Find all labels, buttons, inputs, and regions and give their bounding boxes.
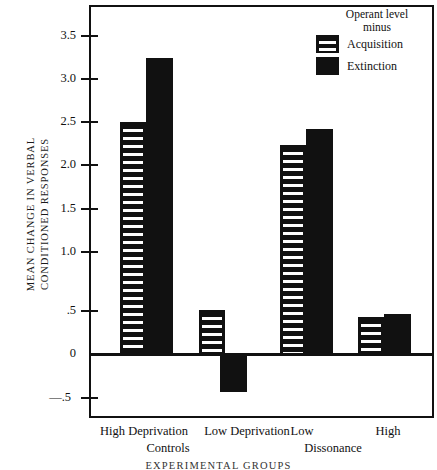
bar-extinction-low-dissonance — [306, 129, 333, 355]
x-category-label-low: Low — [262, 424, 342, 439]
y-tick-mark — [81, 78, 98, 80]
y-tick-label: —.5 — [31, 390, 71, 405]
bar-extinction-high-deprivation — [146, 58, 173, 355]
y-tick-label: 0 — [36, 346, 76, 361]
zero-baseline — [89, 353, 434, 356]
bar-chart-figure: MEAN CHANGE IN VERBAL CONDITIONED RESPON… — [0, 0, 437, 470]
y-tick-mark — [81, 208, 98, 210]
x-group-label-dissonance: Dissonance — [278, 441, 388, 456]
y-tick-label: 1.0 — [36, 244, 76, 259]
y-tick-mark — [81, 310, 98, 312]
legend: Operant level minus Acquisition Extincti… — [300, 8, 430, 34]
legend-item-extinction: Extinction — [316, 57, 397, 75]
y-tick-mark — [81, 164, 98, 166]
x-group-label-controls: Controls — [118, 441, 218, 456]
y-tick-label: .5 — [36, 303, 76, 318]
bar-acquisition-high-dissonance — [358, 317, 384, 355]
bar-acquisition-high-deprivation — [120, 122, 146, 355]
legend-swatch-solid-icon — [316, 57, 339, 75]
y-tick-mark — [81, 35, 98, 37]
y-tick-label: 2.0 — [36, 157, 76, 172]
legend-label-acquisition: Acquisition — [347, 37, 403, 52]
bar-acquisition-low-dissonance — [280, 145, 306, 355]
y-tick-label: 3.5 — [36, 28, 76, 43]
bar-extinction-low-deprivation — [220, 355, 247, 392]
x-axis-title: EXPERIMENTAL GROUPS — [0, 460, 437, 470]
legend-swatch-striped-icon — [316, 35, 339, 53]
legend-label-extinction: Extinction — [347, 59, 397, 74]
x-category-label-high: High — [348, 424, 428, 439]
y-tick-mark — [81, 121, 98, 123]
y-tick-mark — [81, 397, 98, 399]
y-tick-label: 1.5 — [36, 201, 76, 216]
y-tick-mark — [81, 251, 98, 253]
bar-acquisition-low-deprivation — [199, 310, 225, 355]
legend-title: Operant level minus — [314, 8, 437, 34]
y-tick-label: 3.0 — [36, 71, 76, 86]
x-category-label-high-deprivation: High Deprivation — [85, 424, 203, 439]
bar-extinction-high-dissonance — [384, 314, 411, 355]
y-tick-label: 2.5 — [36, 114, 76, 129]
legend-item-acquisition: Acquisition — [316, 35, 403, 53]
